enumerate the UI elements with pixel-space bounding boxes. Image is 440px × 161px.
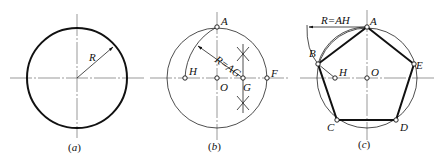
point-H [333,76,337,80]
label-A: A [220,15,228,27]
label-O: O [371,66,379,78]
caption-b: (b) [208,140,221,153]
point-O [215,76,219,80]
point-H [183,76,187,80]
point-G [241,76,245,80]
label-H: H [338,66,348,78]
radius-label: R=AH [320,14,351,26]
label-B: B [309,47,316,59]
label-D: D [399,121,408,133]
figure-c: R=AH A B C D E H O (c) [300,10,435,151]
radius-label: R [88,51,96,63]
label-O: O [220,81,228,93]
geometry-diagram: R (a) R=AG A H O G F (b) [0,0,440,161]
label-F: F [270,67,278,79]
caption-c: (c) [358,138,371,151]
label-E: E [415,59,423,71]
label-G: G [243,81,251,93]
point-F [265,76,269,80]
label-H: H [188,65,198,77]
point-O [365,76,369,80]
label-A: A [369,15,377,27]
caption-a: (a) [68,141,81,154]
point-A [215,25,219,29]
point-C [335,118,339,122]
point-D [394,118,398,122]
figure-a: R (a) [10,14,145,154]
figure-b: R=AG A H O G F (b) [150,12,288,153]
point-A [365,25,369,29]
point-B [316,62,320,66]
pentagon [318,27,414,120]
label-C: C [327,121,335,133]
